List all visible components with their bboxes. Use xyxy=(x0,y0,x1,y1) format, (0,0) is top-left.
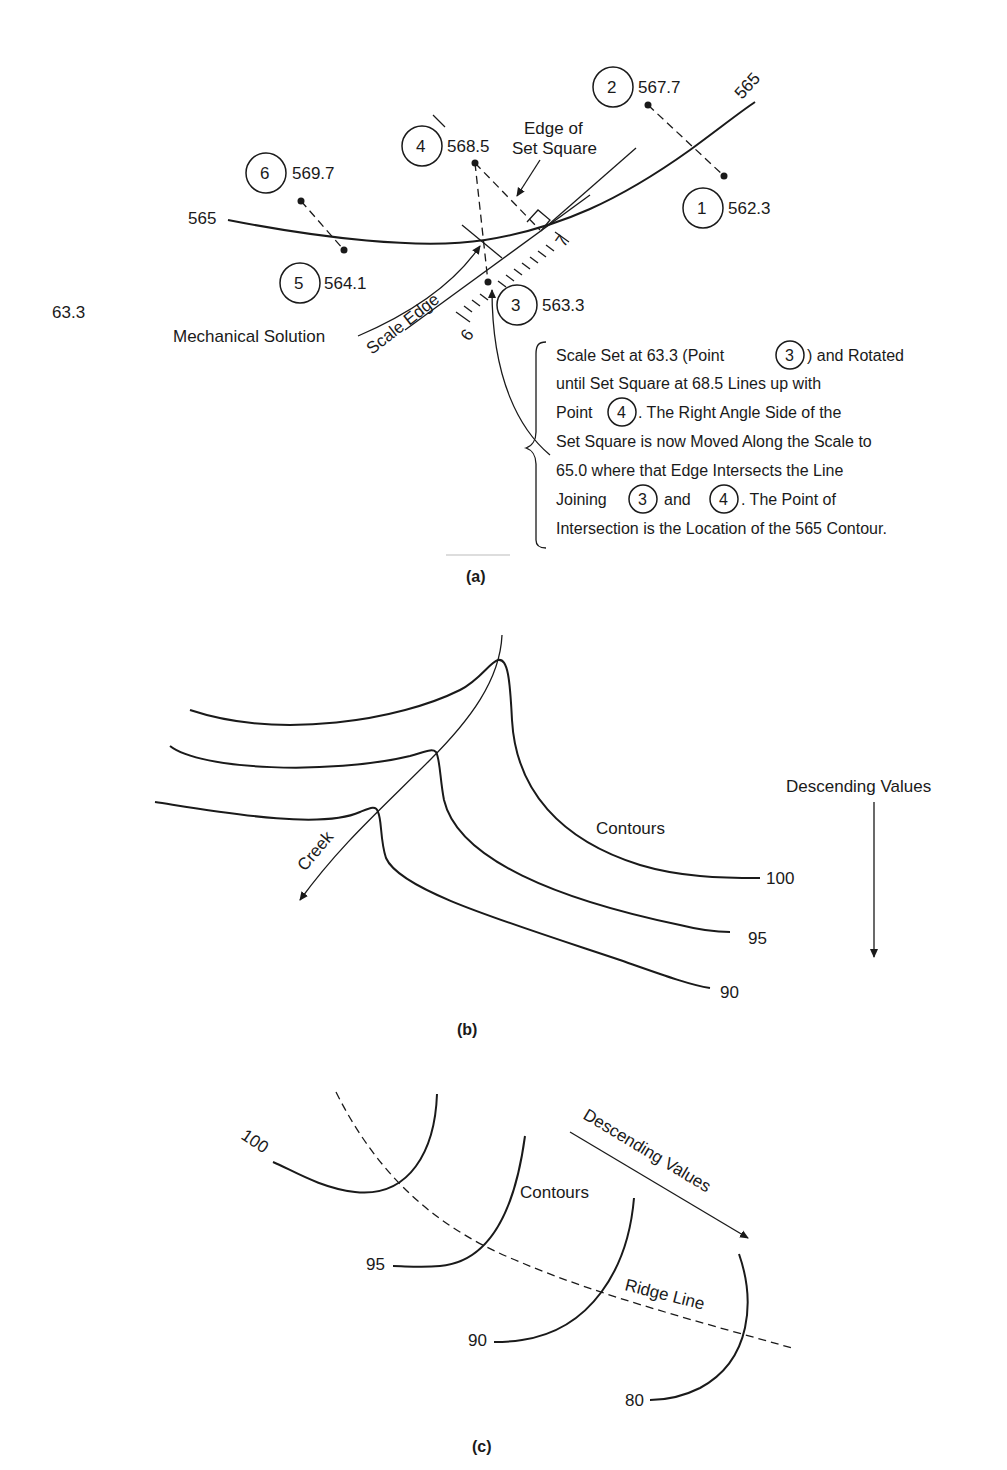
point-label-2: 2 567.7 xyxy=(593,67,681,107)
contour-95 xyxy=(170,746,730,932)
contour-c-90 xyxy=(494,1198,634,1342)
ridge-line-label: Ridge Line xyxy=(623,1275,706,1313)
join-line-6-5 xyxy=(301,201,344,250)
contour-value-c-80: 80 xyxy=(625,1391,644,1410)
svg-text:569.7: 569.7 xyxy=(292,164,335,183)
note-brace xyxy=(526,342,546,548)
svg-text:564.1: 564.1 xyxy=(324,274,367,293)
svg-text:and: and xyxy=(664,491,691,508)
panel-b: Creek Contours 100 95 90 Descending Valu… xyxy=(155,635,931,1038)
point-label-1: 1 562.3 xyxy=(683,188,771,228)
caption-a: (a) xyxy=(466,568,486,585)
svg-text:4: 4 xyxy=(719,491,728,508)
contour-interpolation-figure: 565 565 6 xyxy=(0,0,1007,1470)
edge-of-set-square-arrow xyxy=(517,160,540,196)
point-label-5: 5 564.1 xyxy=(280,263,367,303)
stray-label-63-3: 63.3 xyxy=(52,303,85,322)
contour-c-80 xyxy=(650,1254,748,1400)
svg-text:Joining: Joining xyxy=(556,491,607,508)
contour-c-95 xyxy=(393,1136,525,1267)
creek-label: Creek xyxy=(294,827,338,874)
svg-text:2: 2 xyxy=(607,78,616,97)
set-square-edge-line xyxy=(548,148,636,225)
svg-text:1: 1 xyxy=(697,199,706,218)
svg-text:65.0 where that Edge Intersect: 65.0 where that Edge Intersects the Line xyxy=(556,462,843,479)
svg-text:Intersection is the Location o: Intersection is the Location of the 565 … xyxy=(556,520,887,537)
mechanical-solution-label: Mechanical Solution xyxy=(173,327,325,346)
svg-text:563.3: 563.3 xyxy=(542,296,585,315)
scale-tick-7: 7 xyxy=(552,232,573,251)
edge-of-set-square-label-2: Set Square xyxy=(512,139,597,158)
descending-values-label-c: Descending Values xyxy=(580,1105,714,1196)
explanation-note: Scale Set at 63.3 (Point 3 ) and Rotated… xyxy=(556,341,904,537)
contours-label-b: Contours xyxy=(596,819,665,838)
set-square-edge-dashed xyxy=(475,163,540,230)
contour-label-565-right: 565 xyxy=(731,69,764,103)
svg-text:. The Right Angle Side of the: . The Right Angle Side of the xyxy=(638,404,842,421)
svg-text:5: 5 xyxy=(294,274,303,293)
contour-value-c-100: 100 xyxy=(238,1126,272,1158)
svg-text:3: 3 xyxy=(785,347,794,364)
svg-text:3: 3 xyxy=(638,491,647,508)
contour-c-100 xyxy=(273,1094,437,1193)
svg-text:562.3: 562.3 xyxy=(728,199,771,218)
svg-text:4: 4 xyxy=(617,404,626,421)
svg-text:until Set Square at 68.5 Lines: until Set Square at 68.5 Lines up with xyxy=(556,375,821,392)
edge-of-set-square-label-1: Edge of xyxy=(524,119,583,138)
set-square-edge-extension xyxy=(433,115,445,127)
contour-label-565-left: 565 xyxy=(188,209,216,228)
panel-a: 565 565 6 xyxy=(52,67,904,585)
caption-c: (c) xyxy=(472,1438,492,1455)
caption-b: (b) xyxy=(457,1021,477,1038)
svg-text:) and Rotated: ) and Rotated xyxy=(807,347,904,364)
point-label-6: 6 569.7 xyxy=(246,153,335,193)
contour-value-c-90: 90 xyxy=(468,1331,487,1350)
svg-text:6: 6 xyxy=(260,164,269,183)
join-line-4-3 xyxy=(475,163,488,282)
contour-value-100: 100 xyxy=(766,869,794,888)
ridge-line xyxy=(336,1092,792,1348)
contour-value-c-95: 95 xyxy=(366,1255,385,1274)
svg-text:3: 3 xyxy=(511,296,520,315)
svg-text:568.5: 568.5 xyxy=(447,137,490,156)
descending-values-label-b: Descending Values xyxy=(786,777,931,796)
point-label-3: 3 563.3 xyxy=(497,285,585,325)
scale-tick-6: 6 xyxy=(457,326,478,345)
contour-value-95: 95 xyxy=(748,929,767,948)
join-line-2-1 xyxy=(648,105,724,176)
contour-value-90: 90 xyxy=(720,983,739,1002)
svg-text:567.7: 567.7 xyxy=(638,78,681,97)
svg-text:4: 4 xyxy=(416,137,425,156)
scale-edge-label: Scale Edge xyxy=(363,290,443,359)
contours-label-c: Contours xyxy=(520,1183,589,1202)
panel-c: Ridge Line 100 95 90 80 Contours Descend… xyxy=(238,1092,792,1455)
svg-text:Scale Set at 63.3 (Point: Scale Set at 63.3 (Point xyxy=(556,347,725,364)
svg-text:Set Square is now Moved Along: Set Square is now Moved Along the Scale … xyxy=(556,433,872,450)
svg-text:. The Point of: . The Point of xyxy=(741,491,836,508)
svg-text:Point: Point xyxy=(556,404,593,421)
